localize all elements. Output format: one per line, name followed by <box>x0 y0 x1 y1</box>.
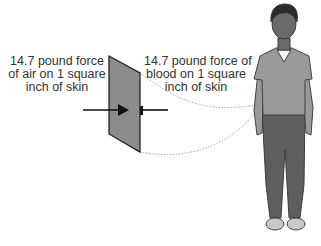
blood-arrow-icon <box>140 106 168 115</box>
left-shoe <box>266 218 284 230</box>
skin-patch <box>109 56 140 152</box>
diagram-canvas <box>0 0 321 246</box>
right-shoe <box>287 218 305 230</box>
person-illustration <box>254 4 313 230</box>
pants <box>262 112 305 218</box>
callout-lines <box>140 73 258 155</box>
